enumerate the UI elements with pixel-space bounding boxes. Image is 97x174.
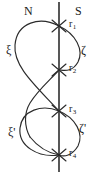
lower-tail-strand-path [30,137,59,155]
xi-prime-curve-label: ξ' [8,126,16,138]
root-label-r4-base: r [69,147,72,158]
north-pole-label: N [24,5,33,17]
root-label-r1: r1 [69,19,76,29]
root-label-r3: r3 [69,104,76,114]
root-label-r2: r2 [69,63,76,73]
root-label-r4: r4 [69,148,76,158]
root-label-r1-base: r [69,18,72,29]
separatrix-diagram: N S ξ ζ ξ' ζ' r1 r2 r3 r4 [0,0,97,174]
root-label-r1-subscript: 1 [73,23,77,31]
lower-left-lobe-path [20,108,59,155]
root-label-r3-subscript: 3 [73,108,77,116]
south-pole-label: S [75,5,82,17]
zeta-curve-label: ζ [81,44,86,56]
root-label-r2-base: r [69,62,72,73]
curve-group [15,21,80,156]
root-label-r3-base: r [69,103,72,114]
zeta-prime-curve-label: ζ' [79,122,86,134]
diagram-canvas [0,0,97,174]
root-label-r2-subscript: 2 [73,67,77,75]
upper-left-lobe-path [15,21,59,111]
xi-curve-label: ξ [6,44,11,56]
root-label-r4-subscript: 4 [73,152,77,160]
